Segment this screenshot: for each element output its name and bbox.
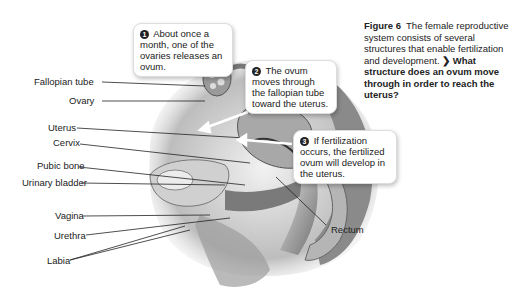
step-number-2: 2	[252, 67, 261, 76]
label-rectum: Rectum	[331, 224, 364, 235]
callout-1: 1 About once a month, one of the ovaries…	[133, 23, 233, 77]
label-urinary-bladder: Urinary bladder	[22, 177, 87, 188]
callout-1-text: About once a month, one of the ovaries r…	[140, 28, 222, 72]
label-vagina: Vagina	[55, 210, 84, 221]
figure-caption: Figure 6 The female reproductive system …	[364, 20, 510, 101]
label-ovary: Ovary	[69, 95, 94, 106]
label-uterus: Uterus	[48, 122, 76, 133]
label-labia: Labia	[47, 255, 70, 266]
chevron-right-icon: ❯	[442, 55, 450, 66]
callout-2: 2 The ovum moves through the fallopian t…	[245, 60, 337, 114]
label-urethra: Urethra	[54, 230, 86, 241]
callout-3-text: If fertilization occurs, the fertilized …	[300, 135, 385, 179]
label-fallopian-tube: Fallopian tube	[34, 76, 94, 87]
label-cervix: Cervix	[53, 137, 80, 148]
figure-number: Figure 6	[364, 20, 401, 31]
step-number-1: 1	[140, 30, 149, 39]
callout-2-text: The ovum moves through the fallopian tub…	[252, 65, 328, 109]
callout-3: 3 If fertilization occurs, the fertilize…	[293, 130, 397, 184]
label-pubic-bone: Pubic bone	[37, 160, 85, 171]
step-number-3: 3	[300, 137, 309, 146]
